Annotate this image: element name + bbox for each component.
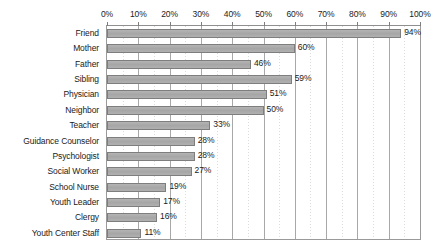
- y-category-label: Father: [75, 59, 99, 69]
- x-tick-label: 50%: [255, 9, 272, 20]
- bar-row: [107, 180, 421, 195]
- y-category-label: Psychologist: [52, 151, 99, 161]
- bar-value-label: 50%: [267, 104, 284, 115]
- y-category-label: Mother: [73, 43, 99, 53]
- bar-value-label: 28%: [198, 150, 215, 161]
- bar: [107, 29, 401, 38]
- x-axis-tick-mark: [264, 22, 265, 26]
- bar: [107, 198, 160, 207]
- x-axis-tick-mark: [420, 22, 421, 26]
- bar-row: [107, 164, 421, 179]
- bar-value-label: 60%: [298, 42, 315, 53]
- bar-row: [107, 72, 421, 87]
- bar-row: [107, 134, 421, 149]
- bar-row: [107, 118, 421, 133]
- y-category-label: Clergy: [75, 212, 99, 222]
- bar-chart: 0%10%20%30%40%50%60%70%80%90%100% Friend…: [0, 0, 433, 249]
- bar-row: [107, 103, 421, 118]
- bar-value-label: 51%: [270, 88, 287, 99]
- bar-row: [107, 210, 421, 225]
- bar: [107, 121, 210, 130]
- y-category-label: Friend: [76, 28, 100, 38]
- y-category-label: Neighbor: [65, 105, 99, 115]
- x-axis-tick-mark: [232, 22, 233, 26]
- x-axis-tick-mark: [326, 22, 327, 26]
- bar: [107, 60, 251, 69]
- bar: [107, 90, 267, 99]
- bar: [107, 137, 195, 146]
- bar-value-label: 19%: [169, 181, 186, 192]
- bar-row: [107, 195, 421, 210]
- bar: [107, 183, 166, 192]
- bar-row: [107, 149, 421, 164]
- x-tick-label: 10%: [130, 9, 147, 20]
- bar-value-label: 94%: [404, 27, 421, 38]
- x-tick-label: 60%: [286, 9, 303, 20]
- x-tick-label: 70%: [318, 9, 335, 20]
- x-axis-tick-labels: 0%10%20%30%40%50%60%70%80%90%100%: [0, 9, 433, 23]
- bar-row: [107, 41, 421, 56]
- x-tick-label: 20%: [161, 9, 178, 20]
- bar: [107, 213, 157, 222]
- bar-value-label: 59%: [295, 73, 312, 84]
- x-axis-tick-mark: [107, 22, 108, 26]
- x-tick-label: 100%: [409, 9, 430, 20]
- bar: [107, 152, 195, 161]
- x-tick-label: 80%: [349, 9, 366, 20]
- bar-value-label: 16%: [160, 211, 177, 222]
- x-tick-label: 30%: [193, 9, 210, 20]
- bar-value-label: 46%: [254, 58, 271, 69]
- x-axis-tick-mark: [295, 22, 296, 26]
- bar-value-label: 33%: [213, 119, 230, 130]
- x-axis-tick-mark: [357, 22, 358, 26]
- bar: [107, 44, 295, 53]
- bar-value-label: 27%: [195, 165, 212, 176]
- y-category-label: Sibling: [74, 74, 99, 84]
- bar-value-label: 17%: [163, 196, 180, 207]
- bar-row: [107, 26, 421, 41]
- bar-row: [107, 87, 421, 102]
- y-category-label: Teacher: [69, 120, 99, 130]
- x-axis-tick-mark: [201, 22, 202, 26]
- x-tick-label: 0%: [101, 9, 113, 20]
- y-category-label: School Nurse: [49, 182, 99, 192]
- bar-value-label: 11%: [144, 227, 160, 238]
- x-tick-label: 40%: [224, 9, 241, 20]
- y-category-label: Youth Leader: [50, 197, 99, 207]
- x-tick-label: 90%: [380, 9, 397, 20]
- bar: [107, 106, 264, 115]
- y-category-label: Social Worker: [48, 166, 99, 176]
- bar-value-label: 28%: [198, 135, 215, 146]
- y-category-label: Physician: [64, 89, 99, 99]
- bar: [107, 75, 292, 84]
- x-axis-tick-mark: [170, 22, 171, 26]
- bar: [107, 167, 192, 176]
- y-category-label: Youth Center Staff: [32, 228, 99, 238]
- bar: [107, 229, 141, 238]
- y-category-label: Guidance Counselor: [23, 136, 99, 146]
- x-axis-tick-mark: [138, 22, 139, 26]
- x-axis-tick-mark: [389, 22, 390, 26]
- y-axis-category-labels: FriendMotherFatherSiblingPhysicianNeighb…: [0, 25, 103, 240]
